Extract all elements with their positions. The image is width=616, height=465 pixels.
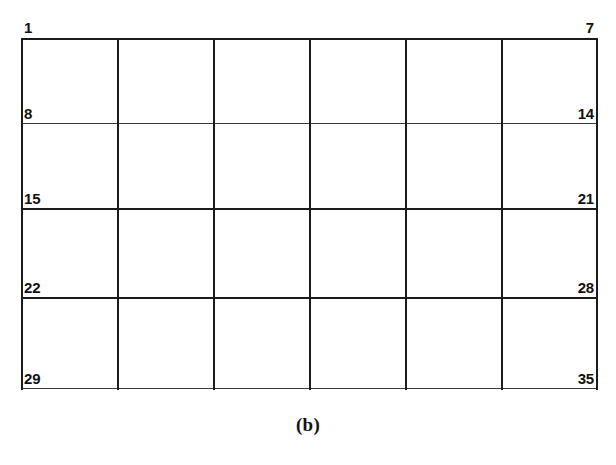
cell-index-label-row5-end: 35 [556,371,594,386]
cell-index-label-row5-start: 29 [24,371,40,386]
cell-index-label-row3-start: 15 [24,191,40,206]
figure-panel-b: 1 7 8 14 15 21 22 28 29 35 (b) [0,0,616,465]
grid-vertical-line-7 [596,38,598,390]
cell-index-label-row1-end: 7 [556,20,594,35]
cell-index-label-row4-start: 22 [24,280,40,295]
cell-index-label-row2-start: 8 [24,106,32,121]
grid-diagram: 1 7 8 14 15 21 22 28 29 35 [0,0,616,400]
grid-vertical-line-1 [21,38,23,390]
grid-vertical-line-3 [213,38,215,390]
grid-vertical-line-2 [117,38,119,390]
figure-caption: (b) [0,414,616,436]
grid-vertical-line-4 [309,38,311,390]
cell-index-label-row2-end: 14 [556,106,594,121]
cell-index-label-row1-start: 1 [24,20,32,35]
grid-vertical-line-5 [405,38,407,390]
cell-index-label-row4-end: 28 [556,280,594,295]
grid-vertical-line-6 [501,38,503,390]
cell-index-label-row3-end: 21 [556,191,594,206]
